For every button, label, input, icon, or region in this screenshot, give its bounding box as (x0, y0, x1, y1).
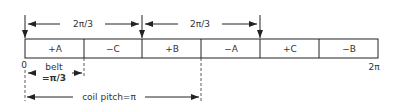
coil-pitch-label: coil pitch=π (82, 92, 136, 102)
belt-label: belt (45, 62, 63, 72)
span-dimension-2: 2π/3 (145, 19, 257, 29)
phase-belt-diagram: 2π/3 2π/3 +A −C +B −A +C −B 0 2π belt =π… (0, 0, 400, 111)
span-dimension-1: 2π/3 (28, 19, 139, 29)
span-label: 2π/3 (73, 19, 93, 29)
belt-value: =π/3 (42, 73, 66, 83)
coil-pitch-dimension: coil pitch=π (27, 92, 199, 102)
end-label: 2π (368, 62, 380, 72)
belt-dimension: belt =π/3 (28, 62, 82, 83)
belt-label-minus-b: −B (342, 44, 356, 54)
span-label: 2π/3 (190, 19, 210, 29)
belt-label-plus-c: +C (283, 44, 297, 54)
belt-label-plus-b: +B (165, 44, 179, 54)
origin-label: 0 (21, 60, 27, 70)
belt-label-minus-a: −A (224, 44, 239, 54)
belt-label-minus-c: −C (106, 44, 120, 54)
belt-label-plus-a: +A (48, 44, 63, 54)
